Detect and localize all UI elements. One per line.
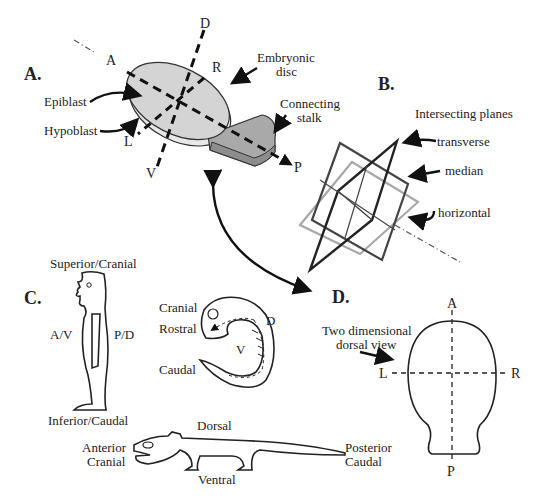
callout-embryonic-disc-line2: disc xyxy=(276,64,297,79)
lizard-label-caudal: Caudal xyxy=(345,454,382,469)
embryo-label-rostral: Rostral xyxy=(159,321,197,336)
axis-2d-label-l: L xyxy=(379,366,388,381)
panel-b-title: Intersecting planes xyxy=(415,106,513,121)
median-arrow xyxy=(412,171,440,176)
lizard-label-ventral: Ventral xyxy=(198,472,236,487)
lizard-silhouette xyxy=(134,432,345,470)
lizard-label-anterior: Anterior xyxy=(82,440,127,455)
plane-label-transverse: transverse xyxy=(437,134,490,149)
callout-connecting-stalk-line1: Connecting xyxy=(280,96,340,111)
panel-a-label: A. xyxy=(24,64,42,84)
panel-c-label: C. xyxy=(24,288,42,308)
median-plane xyxy=(312,143,408,260)
plane-axis-extension xyxy=(395,225,460,262)
transverse-arrow xyxy=(406,140,436,142)
panel-b-label: B. xyxy=(378,74,395,94)
lizard-label-cranial: Cranial xyxy=(87,454,126,469)
axis-2d-label-r: R xyxy=(511,366,521,381)
human-label-back: P/D xyxy=(114,327,134,342)
callout-connecting-stalk-line2: stalk xyxy=(297,110,322,125)
embryo-axes-figure: A. A D R L V P Embryonic disc Connecting… xyxy=(0,0,540,502)
human-label-superior: Superior/Cranial xyxy=(50,256,137,271)
axis-2d-label-a: A xyxy=(447,296,458,311)
axis-2d-label-p: P xyxy=(447,464,455,479)
axis-label-p: P xyxy=(294,160,302,175)
human-eye xyxy=(87,283,91,287)
plane-label-median: median xyxy=(445,163,484,178)
human-arm xyxy=(92,314,100,368)
lizard-label-dorsal: Dorsal xyxy=(197,418,232,433)
embryo-eye xyxy=(208,309,218,319)
plane-label-horizontal: horizontal xyxy=(438,205,491,220)
embryo-label-cranial: Cranial xyxy=(159,300,198,315)
callout-epiblast: Epiblast xyxy=(44,94,87,109)
dorsal-view-arrow xyxy=(360,352,390,359)
connecting-stalk-arrow xyxy=(276,115,286,130)
ap-axis-extension xyxy=(74,40,94,52)
axis-label-v: V xyxy=(146,166,156,181)
lizard-label-posterior: Posterior xyxy=(345,440,393,455)
axis-label-d: D xyxy=(200,16,210,31)
embryo-label-caudal: Caudal xyxy=(159,362,196,377)
embryo-label-ventral: V xyxy=(236,342,246,357)
horizontal-arrow xyxy=(412,211,434,220)
axis-label-l: L xyxy=(124,134,133,149)
panel-d-caption-line2: dorsal view xyxy=(336,337,397,352)
lizard-eye xyxy=(143,442,153,448)
embryonic-disc-arrow xyxy=(234,68,257,82)
panel-a: A. A D R L V P Embryonic disc Connecting… xyxy=(24,16,340,181)
relation-arrow-a-to-d xyxy=(213,184,308,290)
panel-d-caption-line1: Two dimensional xyxy=(322,323,412,338)
callout-hypoblast: Hypoblast xyxy=(44,123,98,138)
callout-embryonic-disc-line1: Embryonic xyxy=(257,50,315,65)
figure-canvas: A. A D R L V P Embryonic disc Connecting… xyxy=(0,0,540,502)
panel-d-label: D. xyxy=(332,287,350,307)
hypoblast-arrow xyxy=(100,121,136,132)
human-label-front: A/V xyxy=(50,327,73,342)
human-silhouette xyxy=(74,272,108,410)
axis-label-a: A xyxy=(106,53,117,68)
axis-label-r: R xyxy=(212,60,222,75)
human-label-inferior: Inferior/Caudal xyxy=(48,413,129,428)
